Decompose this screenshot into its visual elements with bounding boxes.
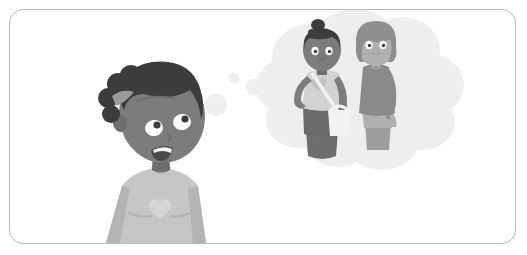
foreground-girl xyxy=(98,61,211,243)
bubble-girl-left-bag xyxy=(328,110,351,136)
foreground-girl-hair-puff-upper xyxy=(120,65,142,85)
thought-bubble-trail xyxy=(205,73,263,117)
illustration-canvas: Girl thinking about two friends xyxy=(0,0,527,255)
thought-trail-dot-small xyxy=(205,94,227,116)
thought-trail-dot-medium xyxy=(229,73,240,84)
thought-trail-dot-large xyxy=(246,79,263,96)
bubble-girl-left-pupil-left xyxy=(314,50,317,53)
bubble-girl-left-pupil-right xyxy=(328,50,331,53)
foreground-girl-hair-puff-low xyxy=(102,105,120,123)
illustration-scene: Girl thinking about two friends xyxy=(10,10,515,243)
bubble-girl-right-pupil-left xyxy=(368,44,371,47)
foreground-girl-pupil-right xyxy=(181,115,188,122)
bubble-girl-left-bun-accent xyxy=(308,29,316,37)
bubble-girl-right-pupil-right xyxy=(382,44,385,47)
scene-artwork: Girl thinking about two friends xyxy=(10,10,515,243)
foreground-girl-pupil-left xyxy=(153,121,160,128)
illustration-frame: Girl thinking about two friends xyxy=(9,9,516,244)
